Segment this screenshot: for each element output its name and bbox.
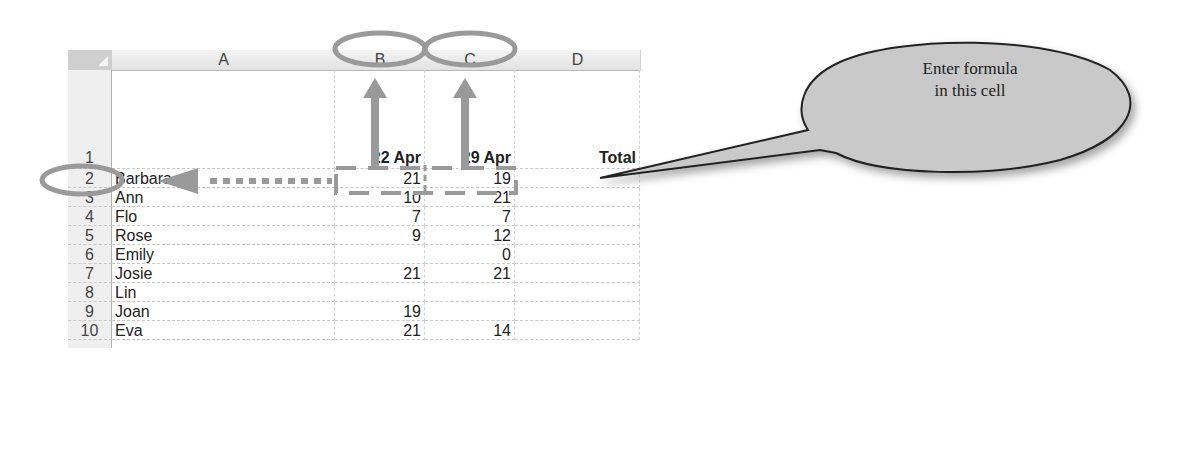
callout-line-1: Enter formula — [855, 58, 1085, 80]
arrow-up-c-icon — [453, 78, 477, 98]
callout-text: Enter formula in this cell — [855, 58, 1085, 102]
arrow-up-b-icon — [363, 78, 387, 98]
circle-column-b-icon — [335, 33, 425, 65]
callout-line-2: in this cell — [855, 80, 1085, 102]
circle-row-2-icon — [42, 166, 122, 194]
circle-column-c-icon — [425, 33, 515, 65]
arrow-left-icon — [158, 168, 198, 194]
